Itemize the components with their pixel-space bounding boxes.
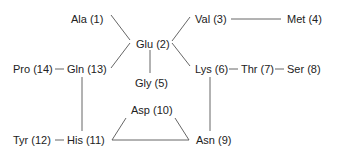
node-pro: Pro (14)	[13, 63, 53, 76]
edge-glu-val	[172, 17, 190, 41]
node-asn: Asn (9)	[196, 134, 231, 147]
node-gln: Gln (13)	[67, 63, 107, 76]
node-ala: Ala (1)	[71, 13, 103, 26]
edge-glu-lys	[172, 43, 190, 66]
node-lys: Lys (6)	[195, 63, 228, 76]
residue-graph-diagram: Ala (1) Glu (2) Val (3) Met (4) Gly (5) …	[0, 0, 337, 158]
node-ser: Ser (8)	[287, 63, 321, 76]
node-asp: Asp (10)	[131, 104, 173, 117]
node-thr: Thr (7)	[241, 63, 274, 76]
edge-ala-glu	[111, 15, 130, 40]
node-val: Val (3)	[195, 13, 227, 26]
edge-gln-glu	[111, 43, 130, 68]
edge-his-asp	[112, 118, 126, 140]
node-tyr: Tyr (12)	[13, 134, 51, 147]
edge-asp-asn	[175, 118, 189, 140]
node-met: Met (4)	[287, 13, 322, 26]
node-gly: Gly (5)	[135, 77, 168, 90]
node-his: His (11)	[67, 134, 105, 147]
node-glu: Glu (2)	[136, 38, 170, 51]
